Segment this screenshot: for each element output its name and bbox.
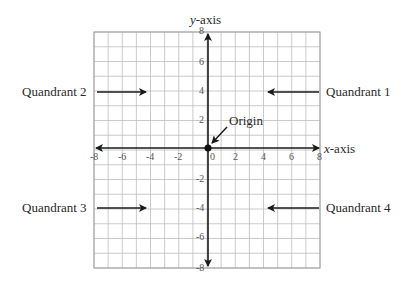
x-tick-label: -4 [146, 151, 154, 162]
y-tick-label: 2 [199, 114, 204, 125]
quadrant-1-label: Quandrant 1 [326, 84, 391, 100]
x-tick-label: 8 [317, 151, 322, 162]
y-tick-label: -8 [196, 262, 204, 273]
y-tick-label: -2 [196, 173, 204, 184]
x-axis-label: x-axis [324, 141, 355, 157]
x-tick-label: 2 [233, 151, 238, 162]
quadrant-4-label: Quandrant 4 [326, 200, 391, 216]
x-tick-label: 0 [210, 151, 215, 162]
x-tick-label: -8 [90, 151, 98, 162]
origin-label: Origin [229, 113, 263, 129]
x-tick-label: -2 [174, 151, 182, 162]
quadrant-2-label: Quandrant 2 [22, 84, 87, 100]
coordinate-plane-diagram: y-axis x-axis Origin Quandrant 2 Quandra… [0, 0, 419, 285]
x-tick-label: 6 [289, 151, 294, 162]
coordinate-grid [0, 0, 419, 285]
y-tick-label: 8 [199, 25, 204, 36]
quadrant-3-label: Quandrant 3 [22, 200, 87, 216]
y-tick-label: 6 [199, 56, 204, 67]
y-tick-label: 4 [199, 85, 204, 96]
y-axis-label: y-axis [190, 12, 221, 28]
y-tick-label: -4 [196, 202, 204, 213]
x-tick-label: -6 [118, 151, 126, 162]
y-tick-label: -6 [196, 231, 204, 242]
x-tick-label: 4 [261, 151, 266, 162]
